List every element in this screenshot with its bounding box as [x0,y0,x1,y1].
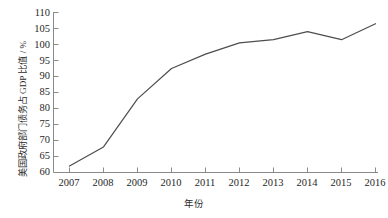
x-axis-ticks [70,168,376,173]
chart-figure: 美国政府部门债务占 GDP 比值 / % 110 105 100 95 90 8… [0,0,388,218]
y-axis-ticks [54,13,59,173]
data-series-line [70,24,376,166]
x-axis-title: 年份 [0,196,388,210]
x-tick-label: 2016 [355,177,388,188]
